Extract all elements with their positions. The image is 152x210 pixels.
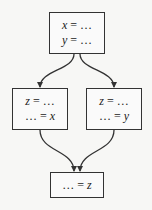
rhs: …	[43, 94, 55, 108]
lhs: …	[25, 109, 37, 123]
edge-right-to-bottom	[80, 130, 114, 171]
node-left: z = … … = x	[12, 88, 68, 130]
op: =	[67, 18, 80, 32]
rhs: z	[87, 178, 92, 192]
edge-top-to-right	[80, 54, 114, 87]
node-top: x = … y = …	[49, 12, 105, 54]
op: =	[111, 109, 124, 123]
op: =	[74, 178, 87, 192]
op: =	[67, 33, 80, 47]
op: =	[104, 94, 117, 108]
node-bottom-line-1: … = z	[62, 178, 91, 193]
rhs: x	[50, 109, 55, 123]
node-right-line-1: z = …	[99, 94, 128, 109]
diagram-canvas: x = … y = … z = … … = x z = … … = y … = …	[0, 0, 152, 210]
rhs: …	[80, 33, 92, 47]
node-top-line-2: y = …	[62, 33, 92, 48]
lhs: …	[62, 178, 74, 192]
node-right-line-2: … = y	[99, 109, 129, 124]
rhs: …	[117, 94, 129, 108]
edge-top-to-left	[40, 54, 74, 87]
node-left-line-2: … = x	[25, 109, 55, 124]
rhs: y	[124, 109, 129, 123]
lhs: …	[99, 109, 111, 123]
op: =	[37, 109, 50, 123]
edge-left-to-bottom	[40, 130, 74, 171]
op: =	[30, 94, 43, 108]
rhs: …	[80, 18, 92, 32]
node-top-line-1: x = …	[62, 18, 92, 33]
node-right: z = … … = y	[86, 88, 142, 130]
node-left-line-1: z = …	[25, 94, 54, 109]
node-bottom: … = z	[50, 172, 104, 198]
